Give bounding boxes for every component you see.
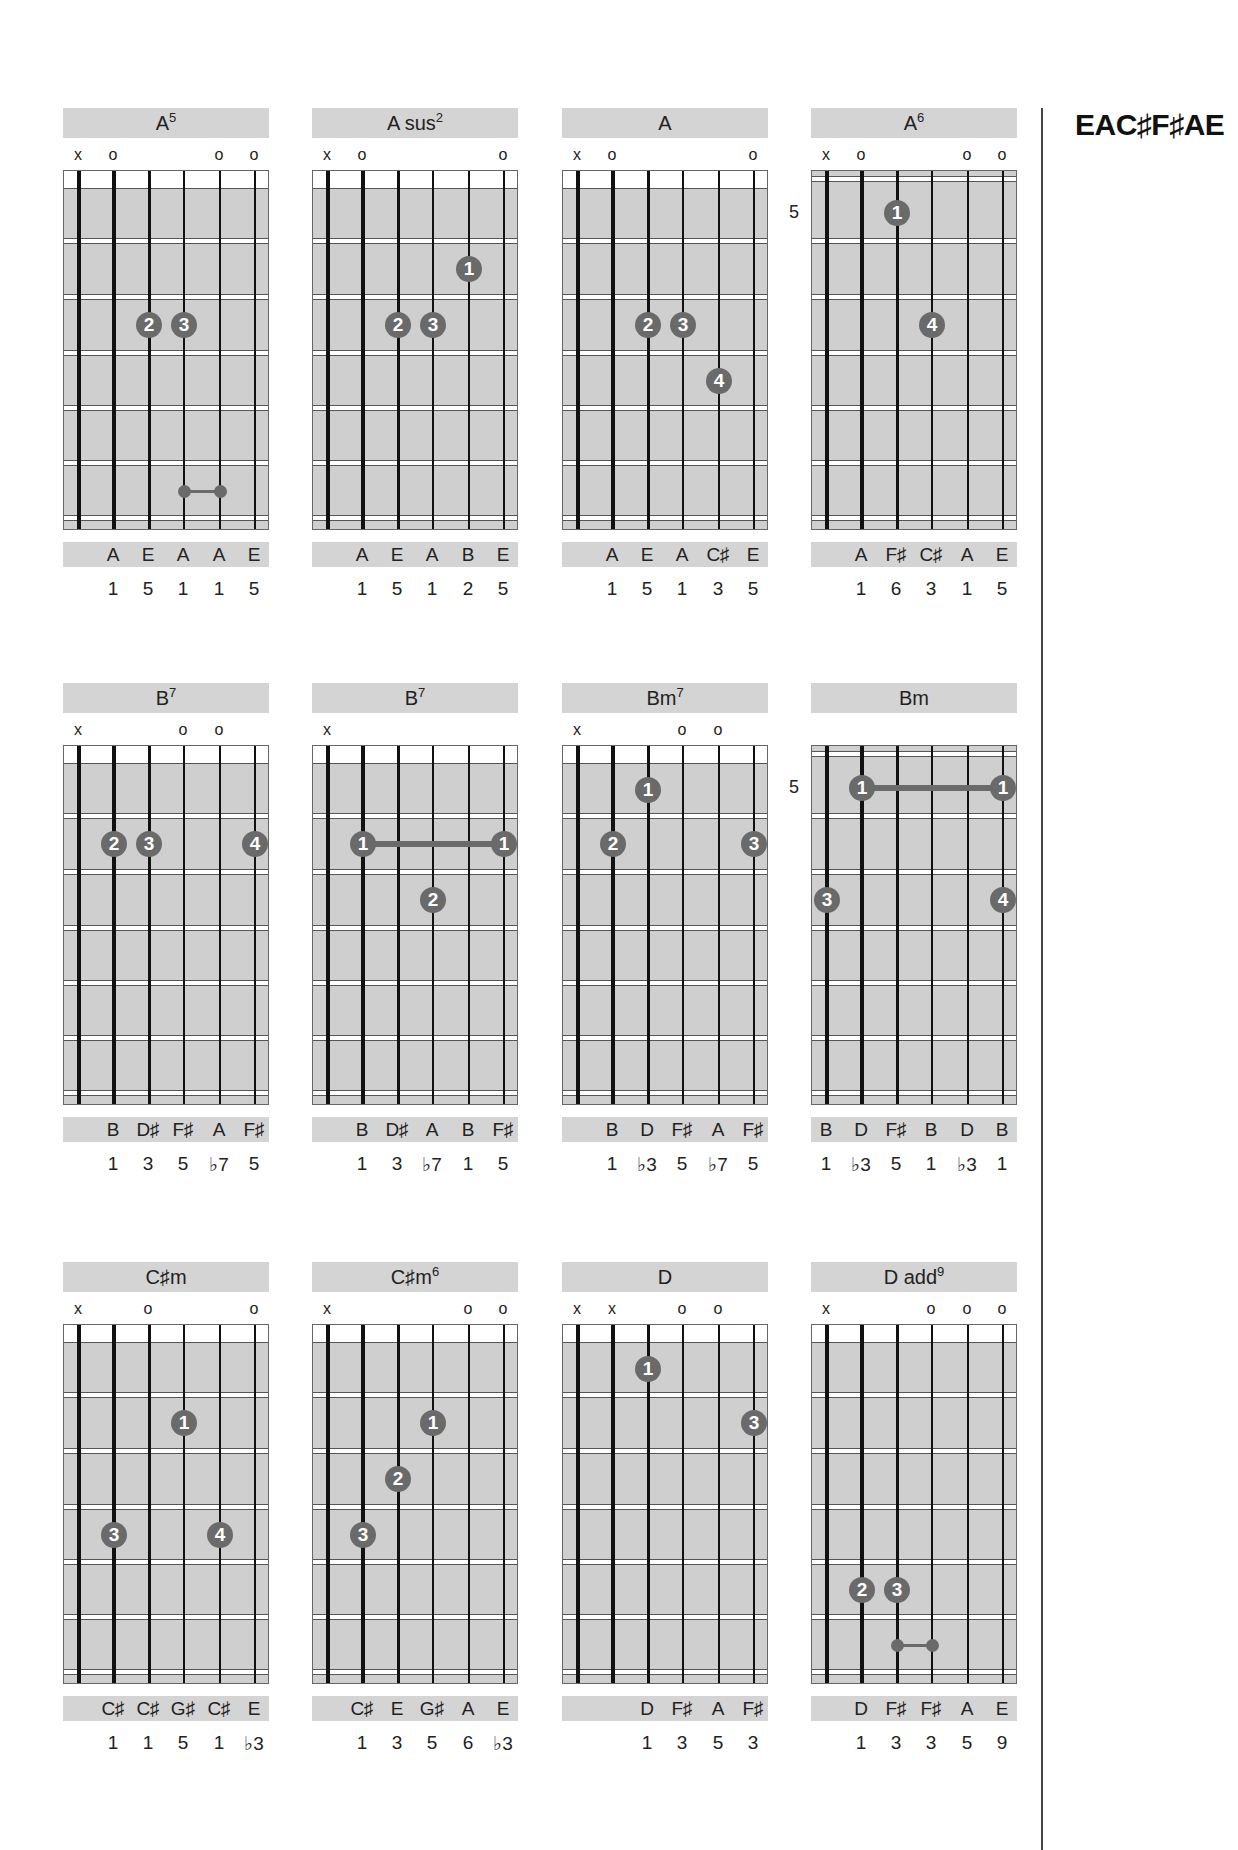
interval-number: ♭3 bbox=[239, 1732, 269, 1755]
note-names-row: C♯EG♯AE bbox=[312, 1696, 518, 1721]
guitar-string bbox=[183, 1325, 186, 1683]
fret-wire bbox=[64, 1448, 268, 1454]
fret-wire bbox=[563, 1035, 767, 1041]
fretboard: 123 bbox=[312, 1324, 518, 1684]
interval-number: ♭3 bbox=[952, 1153, 982, 1176]
fret-wire bbox=[563, 813, 767, 819]
chord-name: B7 bbox=[63, 683, 269, 713]
fret-wire bbox=[812, 1504, 1016, 1510]
intervals-row: 1356♭3 bbox=[312, 1732, 518, 1757]
intervals-row: 1♭35♭75 bbox=[562, 1153, 768, 1178]
interval-number: 3 bbox=[382, 1732, 412, 1754]
note-name: C♯ bbox=[703, 543, 733, 567]
interval-number: 5 bbox=[417, 1732, 447, 1754]
open-string-marker: o bbox=[493, 1300, 513, 1318]
note-names-row: BDF♯BDB bbox=[811, 1117, 1017, 1142]
guitar-string bbox=[148, 746, 151, 1104]
fret-wire bbox=[812, 751, 1016, 757]
interval-number: 5 bbox=[738, 578, 768, 600]
nut bbox=[313, 1325, 517, 1343]
guitar-string bbox=[967, 1325, 969, 1683]
guitar-string bbox=[503, 1325, 505, 1683]
fret-wire bbox=[563, 1614, 767, 1620]
finger-dot: 1 bbox=[456, 256, 482, 282]
open-string-marker: o bbox=[244, 1300, 264, 1318]
fret-wire bbox=[313, 1392, 517, 1398]
note-name: B bbox=[347, 1118, 377, 1142]
note-name: D bbox=[952, 1118, 982, 1142]
guitar-string bbox=[432, 746, 435, 1104]
note-name: B bbox=[453, 543, 483, 567]
chord-name-superscript: 6 bbox=[432, 1264, 439, 1279]
guitar-string bbox=[432, 171, 435, 529]
fret-wire bbox=[64, 1035, 268, 1041]
guitar-string bbox=[112, 746, 116, 1104]
interval-number: 5 bbox=[133, 578, 163, 600]
guitar-string bbox=[183, 171, 186, 529]
finger-dot: 3 bbox=[136, 831, 162, 857]
partial-barre-dot bbox=[891, 1639, 904, 1652]
note-name: E bbox=[239, 1697, 269, 1721]
fretboard: 134 bbox=[63, 1324, 269, 1684]
interval-number: 5 bbox=[488, 1153, 518, 1175]
fretboard: 13 bbox=[562, 1324, 768, 1684]
guitar-string bbox=[326, 171, 330, 529]
fret-wire bbox=[812, 350, 1016, 356]
note-name: F♯ bbox=[916, 1697, 946, 1721]
interval-number: 1 bbox=[916, 1153, 946, 1175]
fret-wire bbox=[313, 1448, 517, 1454]
interval-number: 3 bbox=[881, 1732, 911, 1754]
note-name: C♯ bbox=[98, 1697, 128, 1721]
fret-wire bbox=[64, 813, 268, 819]
note-name: F♯ bbox=[738, 1118, 768, 1142]
fret-wire bbox=[812, 980, 1016, 986]
guitar-string bbox=[967, 746, 969, 1104]
barre-bar bbox=[862, 785, 1003, 791]
guitar-string bbox=[468, 171, 470, 529]
fret-wire bbox=[313, 1614, 517, 1620]
muted-string-marker: x bbox=[816, 146, 836, 164]
note-name: D bbox=[846, 1697, 876, 1721]
finger-dot: 2 bbox=[420, 887, 446, 913]
interval-number: 3 bbox=[916, 578, 946, 600]
note-names-row: AF♯C♯AE bbox=[811, 542, 1017, 567]
note-name: B bbox=[597, 1118, 627, 1142]
finger-dot: 3 bbox=[741, 1410, 767, 1436]
chord-name: C♯m6 bbox=[312, 1262, 518, 1292]
partial-barre-dot bbox=[926, 1639, 939, 1652]
interval-number: 1 bbox=[98, 578, 128, 600]
interval-number: 3 bbox=[667, 1732, 697, 1754]
fret-wire bbox=[812, 1669, 1016, 1675]
open-string-marker: o bbox=[992, 1300, 1012, 1318]
nut bbox=[812, 1325, 1016, 1343]
note-name: G♯ bbox=[168, 1697, 198, 1721]
open-string-marker: o bbox=[708, 1300, 728, 1318]
chord-name-text: C♯m bbox=[391, 1266, 432, 1288]
muted-string-marker: x bbox=[317, 1300, 337, 1318]
fret-wire bbox=[812, 405, 1016, 411]
fret-position-label: 5 bbox=[789, 202, 799, 223]
finger-dot: 2 bbox=[600, 831, 626, 857]
fret-wire bbox=[64, 869, 268, 875]
fret-wire bbox=[64, 1559, 268, 1565]
note-name: F♯ bbox=[667, 1118, 697, 1142]
chord-name-superscript: 7 bbox=[169, 685, 176, 700]
note-name: E bbox=[488, 1697, 518, 1721]
nut bbox=[64, 171, 268, 189]
interval-number: 5 bbox=[987, 578, 1017, 600]
interval-number: 5 bbox=[632, 578, 662, 600]
muted-string-marker: x bbox=[602, 1300, 622, 1318]
interval-number: 3 bbox=[738, 1732, 768, 1754]
note-name: D bbox=[632, 1118, 662, 1142]
finger-dot: 2 bbox=[635, 312, 661, 338]
intervals-row: 1353 bbox=[562, 1732, 768, 1757]
note-name: B bbox=[811, 1118, 841, 1142]
finger-dot: 3 bbox=[741, 831, 767, 857]
note-name: D bbox=[632, 1697, 662, 1721]
fret-wire bbox=[812, 869, 1016, 875]
note-name: E bbox=[382, 1697, 412, 1721]
fret-wire bbox=[313, 515, 517, 521]
guitar-string bbox=[576, 1325, 580, 1683]
fretboard: 234 bbox=[63, 745, 269, 1105]
note-name: A bbox=[667, 543, 697, 567]
